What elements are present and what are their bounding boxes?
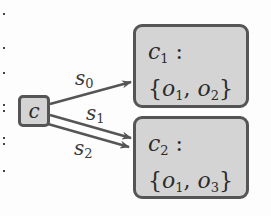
- diagram-canvas: c c1 : {o1, o2} c2 : {o1, o3} s0 s1 s2: [0, 0, 271, 216]
- edge-label-s0: s0: [75, 66, 94, 91]
- target-node-c1: c1 : {o1, o2}: [133, 24, 249, 108]
- source-node-label: c: [28, 99, 39, 123]
- source-node-c: c: [18, 95, 50, 127]
- margin-dot: [3, 47, 5, 49]
- margin-dot: [3, 170, 5, 172]
- edge-label-s2: s2: [74, 136, 93, 161]
- margin-dot: [3, 13, 5, 15]
- node-c1-title: c1 :: [148, 37, 246, 74]
- margin-dot: [3, 143, 5, 145]
- margin-dot: [3, 104, 5, 106]
- margin-dot: [3, 72, 5, 74]
- node-c2-set: {o1, o3}: [148, 166, 246, 203]
- edge-label-s1: s1: [86, 101, 105, 126]
- margin-dot: [3, 110, 5, 112]
- target-node-c2: c2 : {o1, o3}: [133, 116, 249, 199]
- node-c1-set: {o1, o2}: [148, 74, 246, 111]
- node-c2-title: c2 :: [148, 129, 246, 166]
- margin-dot: [3, 137, 5, 139]
